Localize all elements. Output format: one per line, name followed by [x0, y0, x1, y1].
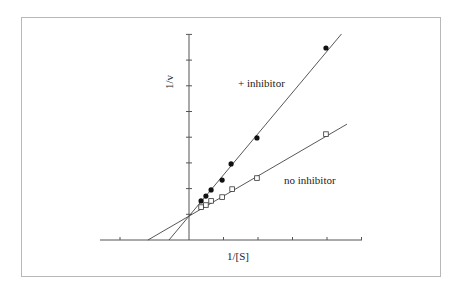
data-point-inhibitor: [208, 187, 213, 192]
data-point-inhibitor: [198, 198, 203, 203]
no-inhibitor-label: no inhibitor: [284, 174, 336, 186]
lineweaver-burk-plot: 1/[S] 1/v + inhibitor no inhibitor: [0, 0, 465, 291]
data-point-inhibitor: [203, 193, 208, 198]
data-point-inhibitor: [220, 178, 225, 183]
x-axis-label: 1/[S]: [227, 250, 249, 262]
data-point-no-inhibitor: [204, 203, 209, 208]
data-point-no-inhibitor: [230, 187, 235, 192]
data-point-inhibitor: [254, 135, 259, 140]
y-axis-label: 1/v: [163, 74, 175, 89]
data-point-no-inhibitor: [255, 176, 260, 181]
data-point-no-inhibitor: [199, 205, 204, 210]
data-point-inhibitor: [323, 45, 328, 50]
data-point-no-inhibitor: [209, 199, 214, 204]
data-point-no-inhibitor: [324, 132, 329, 137]
fit-lines: [148, 34, 347, 240]
inhibitor-label: + inhibitor: [238, 77, 285, 89]
data-point-inhibitor: [228, 161, 233, 166]
axes: [100, 34, 362, 240]
data-point-no-inhibitor: [220, 195, 225, 200]
